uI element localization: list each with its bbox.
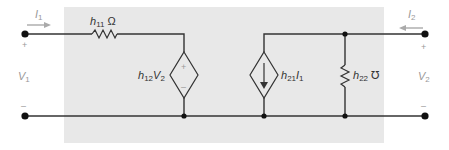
v1-label: V1 <box>18 70 30 84</box>
two-port-box <box>64 7 384 143</box>
vs-minus: – <box>181 82 186 92</box>
junction-dot <box>342 113 347 118</box>
circuit-diagram: I1 + V1 – I2 + V2 – h11 Ω h12V2 + – h21I… <box>0 0 449 150</box>
vs-plus: + <box>181 62 186 72</box>
terminal-port1-top <box>21 30 28 37</box>
terminal-port2-top <box>421 30 428 37</box>
junction-dot <box>261 113 266 118</box>
v2-label: V2 <box>418 70 430 84</box>
port1-minus: – <box>21 101 26 111</box>
junction-dot <box>342 31 347 36</box>
i2-label: I2 <box>408 8 416 22</box>
terminal-port2-bottom <box>421 112 428 119</box>
terminal-port1-bottom <box>21 112 28 119</box>
port2-plus: + <box>421 42 426 52</box>
i1-label: I1 <box>35 8 43 22</box>
i1-arrow-head-icon <box>44 22 51 28</box>
i2-arrow-head-icon <box>399 25 406 31</box>
junction-dot <box>181 113 186 118</box>
port2-minus: – <box>421 101 426 111</box>
port1-plus: + <box>22 40 27 50</box>
